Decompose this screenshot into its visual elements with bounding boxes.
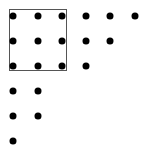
dot-below: [10, 138, 17, 145]
dot-right: [132, 13, 139, 20]
dot-right: [107, 13, 114, 20]
dot-inside-box: [10, 38, 17, 45]
dot-inside-box: [35, 38, 42, 45]
dot-right: [83, 38, 90, 45]
dot-below: [35, 113, 42, 120]
dot-inside-box: [35, 13, 42, 20]
dot-inside-box: [35, 63, 42, 70]
dot-below: [10, 113, 17, 120]
dot-inside-box: [59, 13, 66, 20]
dot-inside-box: [59, 63, 66, 70]
dot-right: [83, 63, 90, 70]
dot-right: [107, 38, 114, 45]
dot-below: [10, 88, 17, 95]
dot-right: [83, 13, 90, 20]
dot-inside-box: [59, 38, 66, 45]
dot-diagram: [0, 0, 146, 153]
dot-inside-box: [10, 13, 17, 20]
dot-inside-box: [10, 63, 17, 70]
dot-below: [35, 88, 42, 95]
